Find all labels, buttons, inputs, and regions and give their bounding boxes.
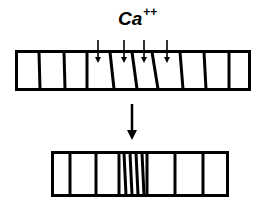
top-bar xyxy=(17,52,250,90)
contraction-diagram xyxy=(0,0,263,208)
transition-arrow-icon xyxy=(127,104,137,140)
bottom-bar xyxy=(53,153,228,196)
